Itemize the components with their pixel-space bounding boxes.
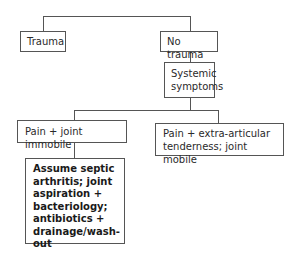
connector-top-horizontal [43, 16, 191, 17]
connector-systemic-down [190, 98, 191, 110]
node-pain-joint-mobile: Pain + extra-articular tenderness; joint… [155, 123, 284, 156]
node-systemic-symptoms: Systemic symptoms [164, 62, 215, 98]
connector-mid-horizontal [74, 110, 219, 111]
connector-to-no-trauma [190, 16, 191, 31]
connector-to-trauma [43, 16, 44, 31]
connector-to-pain-mobile [218, 110, 219, 123]
node-trauma: Trauma [20, 31, 66, 52]
connector-to-septic [74, 143, 75, 158]
node-no-trauma: No trauma [160, 31, 218, 52]
connector-to-pain-immobile [74, 110, 75, 120]
node-septic-arthritis: Assume septic arthritis; joint aspiratio… [25, 158, 125, 244]
node-pain-joint-immobile: Pain + joint immobile [17, 120, 127, 143]
